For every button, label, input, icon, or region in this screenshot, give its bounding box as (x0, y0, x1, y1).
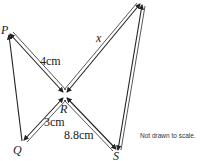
measure-QR: 3cm (44, 115, 65, 129)
scale-note: Not drawn to scale. (140, 132, 196, 139)
label-S: S (113, 149, 119, 161)
label-R: R (59, 102, 68, 116)
measure-RS: 8.8cm (64, 128, 94, 142)
measure-RT: x (95, 31, 102, 45)
label-P: P (0, 23, 9, 37)
measure-PR: 4cm (40, 54, 61, 68)
label-Q: Q (13, 143, 22, 157)
geometry-diagram: P Q R S 4cm x 3cm 8.8cm Not drawn to sca… (0, 0, 212, 161)
segment-RS (64, 98, 116, 151)
segment-TS (118, 5, 145, 150)
segment-RT (64, 3, 140, 92)
segment-PQ (9, 35, 22, 141)
